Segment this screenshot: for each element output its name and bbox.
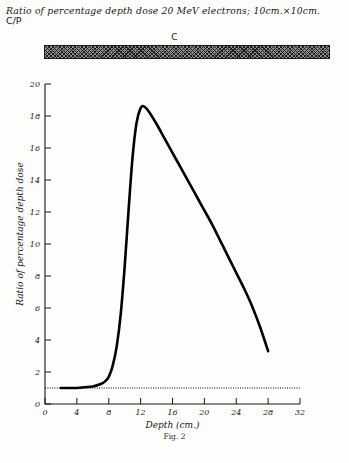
y-axis-tick-label: 4 [34,336,40,345]
x-axis-tick-label: 24 [230,408,241,417]
y-axis-tick-label: 2 [34,368,40,377]
y-axis-tick-label: 0 [35,400,40,409]
y-axis-tick-label: 6 [35,304,40,313]
x-axis-tick-label: 16 [167,408,177,417]
axis-frame [45,84,300,404]
x-axis-tick-label: 28 [262,408,273,417]
figure-page: Ratio of percentage depth dose 20 MeV el… [0,0,349,463]
plot-area: 02468101214161820048121620242832Depth (c… [0,0,349,463]
x-axis-tick-label: 8 [106,408,111,417]
x-axis-tick-label: 20 [198,408,209,417]
y-axis-tick-label: 10 [30,240,40,249]
series-cp-ratio-curve [61,106,268,388]
y-axis-tick-label: 20 [29,80,40,89]
y-axis-tick-label: 8 [35,272,40,281]
x-axis-title: Depth (cm.) [144,420,200,430]
x-axis-tick-label: 12 [136,408,146,417]
x-axis-tick-label: 32 [295,408,305,417]
y-axis-tick-label: 12 [30,208,40,217]
x-axis-tick-label: 4 [73,408,79,417]
y-axis-tick-label: 16 [30,144,40,153]
chart-svg: 02468101214161820048121620242832Depth (c… [0,0,349,463]
figure-caption: Fig. 2 [0,432,349,441]
y-axis-tick-label: 18 [30,112,40,121]
x-axis-tick-label: 0 [42,408,47,417]
y-axis-title: Ratio of percentage depth dose [15,162,25,306]
y-axis-tick-label: 14 [30,176,40,185]
